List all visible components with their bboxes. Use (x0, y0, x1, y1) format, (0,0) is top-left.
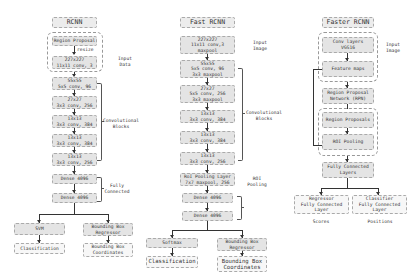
faster-rcnn-roi-pooling: ROI Pooling (322, 134, 374, 150)
skip-line (313, 145, 322, 146)
branch-line (347, 178, 348, 188)
faster-rcnn-conv-layers: Conv layers VGG16 (322, 37, 374, 53)
fast-rcnn-softmax: Softmax (146, 238, 198, 248)
rcnn-bbox-regressor: Bounding Box Regressor (83, 223, 133, 236)
fast-rcnn-classification: Classification (146, 256, 198, 268)
fast-rcnn-conv-label: Convolutional Blocks (246, 110, 282, 121)
fast-rcnn-input-label: Input Image (252, 40, 268, 51)
bracket-tick (241, 207, 244, 208)
rcnn-dense-2: Dense 4096 (52, 193, 97, 203)
faster-rcnn-classifier: Classifier Fully Connected Layer (352, 195, 407, 214)
rcnn-classification: Classification (14, 243, 65, 254)
faster-rcnn-title: Faster RCNN (322, 17, 374, 28)
rcnn-conv-3: 13x13 3x3 conv, 384 (52, 115, 97, 128)
faster-rcnn-region-proposals: Region Proposals (322, 112, 374, 128)
fast-rcnn-conv-2: 27x27 5x5 conv, 256 3x3 maxpool (180, 85, 235, 103)
skip-line (313, 69, 322, 70)
branch-line (39, 214, 109, 215)
rcnn-svm: SVM (14, 223, 65, 235)
faster-rcnn-positions-label: Positions (366, 219, 394, 225)
rcnn-fc-label: Fully Connected (104, 183, 130, 194)
rcnn-conv-2: 27x27 3x3 conv, 256 (52, 96, 97, 109)
faster-rcnn-scores-label: Scores (310, 219, 332, 225)
fast-rcnn-bbox-coordinates: Bounding Box Coordinates (217, 256, 267, 272)
rcnn-fc-bracket (97, 177, 102, 202)
rcnn-conv-1: 55x55 5x5 conv, 96 (52, 77, 97, 90)
fast-rcnn-input-box: 227x227 11x11 conv,3 maxpool (180, 36, 235, 54)
fast-rcnn-title: Fast RCNN (180, 17, 235, 28)
faster-rcnn-regressor: Regressor Fully Connected Layer (294, 195, 349, 214)
fast-rcnn-fc-bracket (237, 196, 242, 220)
fast-rcnn-bbox-regressor: Bounding Box Regressor (217, 238, 267, 251)
rcnn-conv-label: Convolutional Blocks (103, 118, 139, 129)
rcnn-bbox-coordinates: Bounding Box Coordinates (83, 243, 133, 257)
fast-rcnn-dense-1: Dense 4096 (182, 193, 233, 203)
rcnn-input-box: 227x227 11x11 conv, 3 (52, 56, 97, 69)
fast-rcnn-dense-2: Dense 4096 (182, 211, 233, 221)
branch-line (321, 188, 378, 189)
skip-line (313, 69, 314, 145)
rcnn-title-text: RCNN (67, 20, 83, 26)
fast-rcnn-conv-bracket (238, 68, 243, 161)
rcnn-conv-bracket (97, 83, 102, 161)
fast-rcnn-roi-label: ROI Pooling (246, 176, 268, 187)
branch-line (172, 230, 243, 231)
fast-rcnn-roi-pooling-layer: RoI Pooling Layer 7x7 maxpool, 256 (180, 173, 235, 186)
faster-rcnn-input-label: Input Image (384, 42, 402, 53)
bracket-tick (242, 113, 245, 114)
faster-rcnn-rpn: Region Proposal Network (RPN) (322, 88, 374, 104)
fast-rcnn-conv-4: 13x13 3x3 conv, 384 (180, 131, 235, 144)
branch-line (207, 221, 208, 230)
rcnn-region-proposal: Region Proposal (52, 36, 97, 46)
branch-line (74, 203, 75, 214)
faster-rcnn-feature-maps: Feature maps (322, 61, 374, 77)
faster-rcnn-fc-layers: Fully Connected Layers (322, 162, 374, 178)
rcnn-dense-1: Dense 4096 (52, 174, 97, 184)
rcnn-conv-5: 13x13 3x3 conv, 256 (52, 153, 97, 166)
fast-rcnn-conv-1: 55x55 5x5 conv, 96 3x3 maxpool (180, 60, 235, 78)
fast-rcnn-conv-5: 13x13 3x3 conv, 256 (180, 152, 235, 165)
rcnn-title: RCNN (52, 17, 97, 28)
rcnn-input-label: Input Data (112, 56, 138, 67)
fast-rcnn-conv-3: 13x13 3x3 conv, 384 (180, 110, 235, 123)
rcnn-conv-4: 13x13 3x3 conv, 384 (52, 134, 97, 147)
arrow-head (72, 52, 76, 55)
rcnn-resize-label: resize (77, 47, 94, 53)
